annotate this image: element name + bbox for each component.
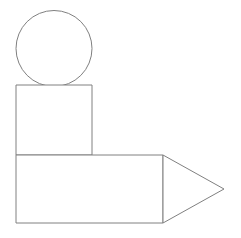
rectangle-shape[interactable]	[16, 155, 163, 223]
shape-canvas-root	[0, 0, 241, 238]
shape-drawing-canvas	[0, 0, 241, 238]
circle-shape[interactable]	[16, 11, 92, 87]
square-shape[interactable]	[16, 85, 92, 155]
